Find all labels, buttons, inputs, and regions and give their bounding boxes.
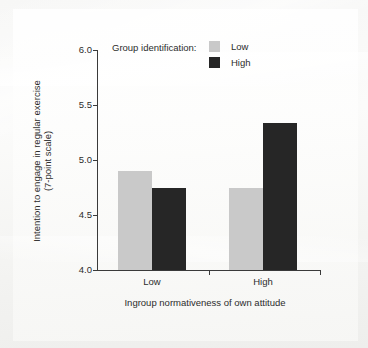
y-tick-label: 5.5 [66,100,92,110]
x-category-label-low: Low [122,277,182,287]
y-tick-label: 4.5 [66,210,92,220]
bar-high-normativeness-low-identification [229,188,263,271]
y-tick-label-wrap-1: 5.5 [62,100,92,110]
x-tick-mark-right-end [320,271,321,275]
legend-label-high: High [231,57,251,68]
legend-item-low: Low [209,41,248,52]
legend-title: Group identification: [112,42,197,53]
y-tick-mark-5-5 [93,105,97,106]
legend-swatch-low-icon [209,41,220,52]
bar-low-normativeness-high-identification [152,188,186,271]
chart-figure: 6.0 5.5 5.0 4.5 4.0 Low High Ingroup nor… [0,0,368,348]
y-tick-label-wrap-0: 6.0 [62,45,92,55]
legend-item-high: High [209,57,251,68]
y-tick-label-wrap-4: 4.0 [62,265,92,275]
x-category-label-high: High [233,277,293,287]
y-tick-label: 4.0 [66,265,92,275]
x-tick-mark-center [209,271,210,275]
y-tick-mark-4-0 [93,270,97,271]
page-plate [13,9,358,341]
legend-swatch-high-icon [209,57,220,68]
y-axis-title-line-1: Intention to engage in regular exercise [31,80,42,242]
bar-high-normativeness-high-identification [263,123,297,270]
y-axis-title: Intention to engage in regular exercise … [31,56,53,266]
y-axis-title-line-2: (7-point scale) [42,56,53,266]
x-axis-title: Ingroup normativeness of own attitude [60,297,350,308]
bar-low-normativeness-low-identification [118,171,152,270]
y-tick-label: 5.0 [66,155,92,165]
y-tick-mark-5-0 [93,160,97,161]
y-tick-label-wrap-2: 5.0 [62,155,92,165]
y-tick-label-wrap-3: 4.5 [62,210,92,220]
y-tick-mark-4-5 [93,215,97,216]
y-axis-line [97,50,98,271]
legend-label-low: Low [231,41,248,52]
y-tick-mark-6-0 [93,50,97,51]
y-tick-label: 6.0 [66,45,92,55]
